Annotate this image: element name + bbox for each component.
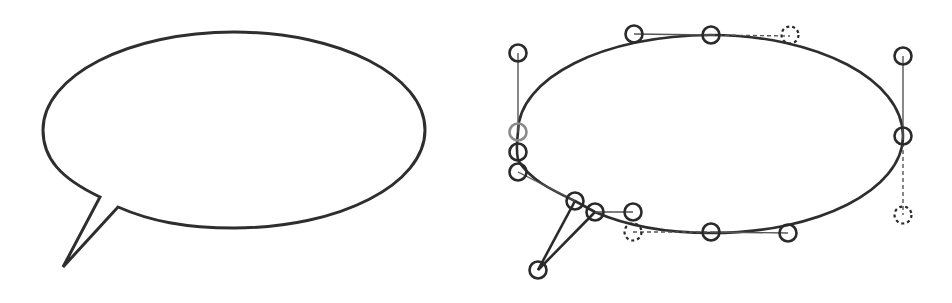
figure-canvas bbox=[0, 0, 952, 303]
tail-edge-left bbox=[538, 201, 575, 270]
handle-line-top bbox=[634, 34, 711, 35]
speech-bubble bbox=[43, 32, 425, 267]
control-point-top-3-dashed[interactable] bbox=[782, 27, 799, 44]
speech-bubble-outline bbox=[43, 32, 425, 267]
handle-line-bottom-right bbox=[711, 232, 788, 233]
tail-edge-right bbox=[538, 212, 595, 270]
bezier-construction bbox=[510, 26, 912, 279]
